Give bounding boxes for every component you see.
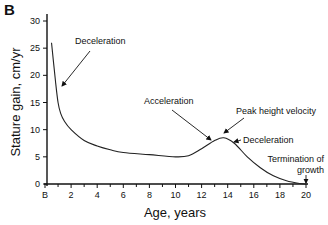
x-tick-label: 2 [69,190,74,200]
arrow-icon [224,118,244,133]
x-tick-label: 6 [121,190,126,200]
annotations: DecelerationAccelerationPeak height velo… [62,36,324,183]
annotation-termination-line1: Termination of [267,154,324,164]
y-tick-label: 25 [30,43,40,53]
y-tick-label: 10 [30,125,40,135]
x-tick-label: B [42,190,48,200]
y-axis-label: Stature gain, cm/yr [8,47,23,157]
x-tick-label: 20 [301,190,311,200]
annotation-deceleration-early: Deceleration [75,36,126,46]
chart: 051015202530B2468101214161820 Decelerati… [0,0,328,225]
x-tick-label: 8 [147,190,152,200]
x-axis-label: Age, years [144,205,207,220]
y-tick-label: 15 [30,98,40,108]
x-tick-label: 4 [95,190,100,200]
x-tick-label: 16 [249,190,259,200]
arrow-icon [172,110,211,140]
annotation-deceleration-late: Deceleration [243,135,294,145]
x-tick-label: 10 [170,190,180,200]
y-tick-label: 0 [35,179,40,189]
x-tick-label: 14 [223,190,233,200]
arrow-icon [234,140,241,142]
y-tick-label: 5 [35,152,40,162]
x-tick-label: 12 [197,190,207,200]
y-tick-label: 20 [30,70,40,80]
x-tick-label: 18 [275,190,285,200]
y-tick-label: 30 [30,16,40,26]
annotation-acceleration: Acceleration [144,96,194,106]
arrow-icon [62,51,90,86]
annotation-termination-line2: growth [297,165,324,175]
annotation-peak-height-velocity: Peak height velocity [236,106,317,116]
